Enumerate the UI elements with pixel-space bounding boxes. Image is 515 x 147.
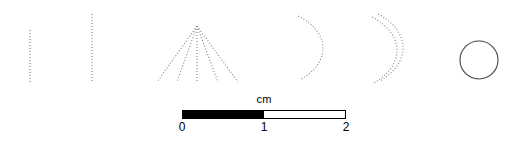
archaeological-illustration-figure: cm 0 1 2: [0, 0, 515, 147]
dotted-double-arc-inner: [372, 17, 397, 83]
scale-segment-empty: [264, 111, 345, 118]
scale-tick-0: 0: [172, 120, 192, 134]
fan-ray-2: [177, 26, 197, 82]
fan-ray-5: [197, 26, 238, 82]
scale-unit-label: cm: [182, 93, 346, 106]
dotted-double-arc-outer: [378, 14, 403, 81]
fan-ray-4: [197, 26, 218, 82]
scale-segment-filled: [183, 111, 264, 118]
dotted-radiating-fan: [157, 26, 238, 82]
solid-circle-outline: [460, 41, 498, 79]
dotted-single-arc: [298, 16, 323, 80]
fan-ray-1: [157, 26, 197, 82]
dotted-double-arc: [372, 14, 403, 83]
scale-tick-1: 1: [254, 120, 274, 134]
scale-bar: [182, 110, 346, 119]
scale-tick-labels: 0 1 2: [182, 120, 346, 136]
scale-tick-2: 2: [336, 120, 356, 134]
